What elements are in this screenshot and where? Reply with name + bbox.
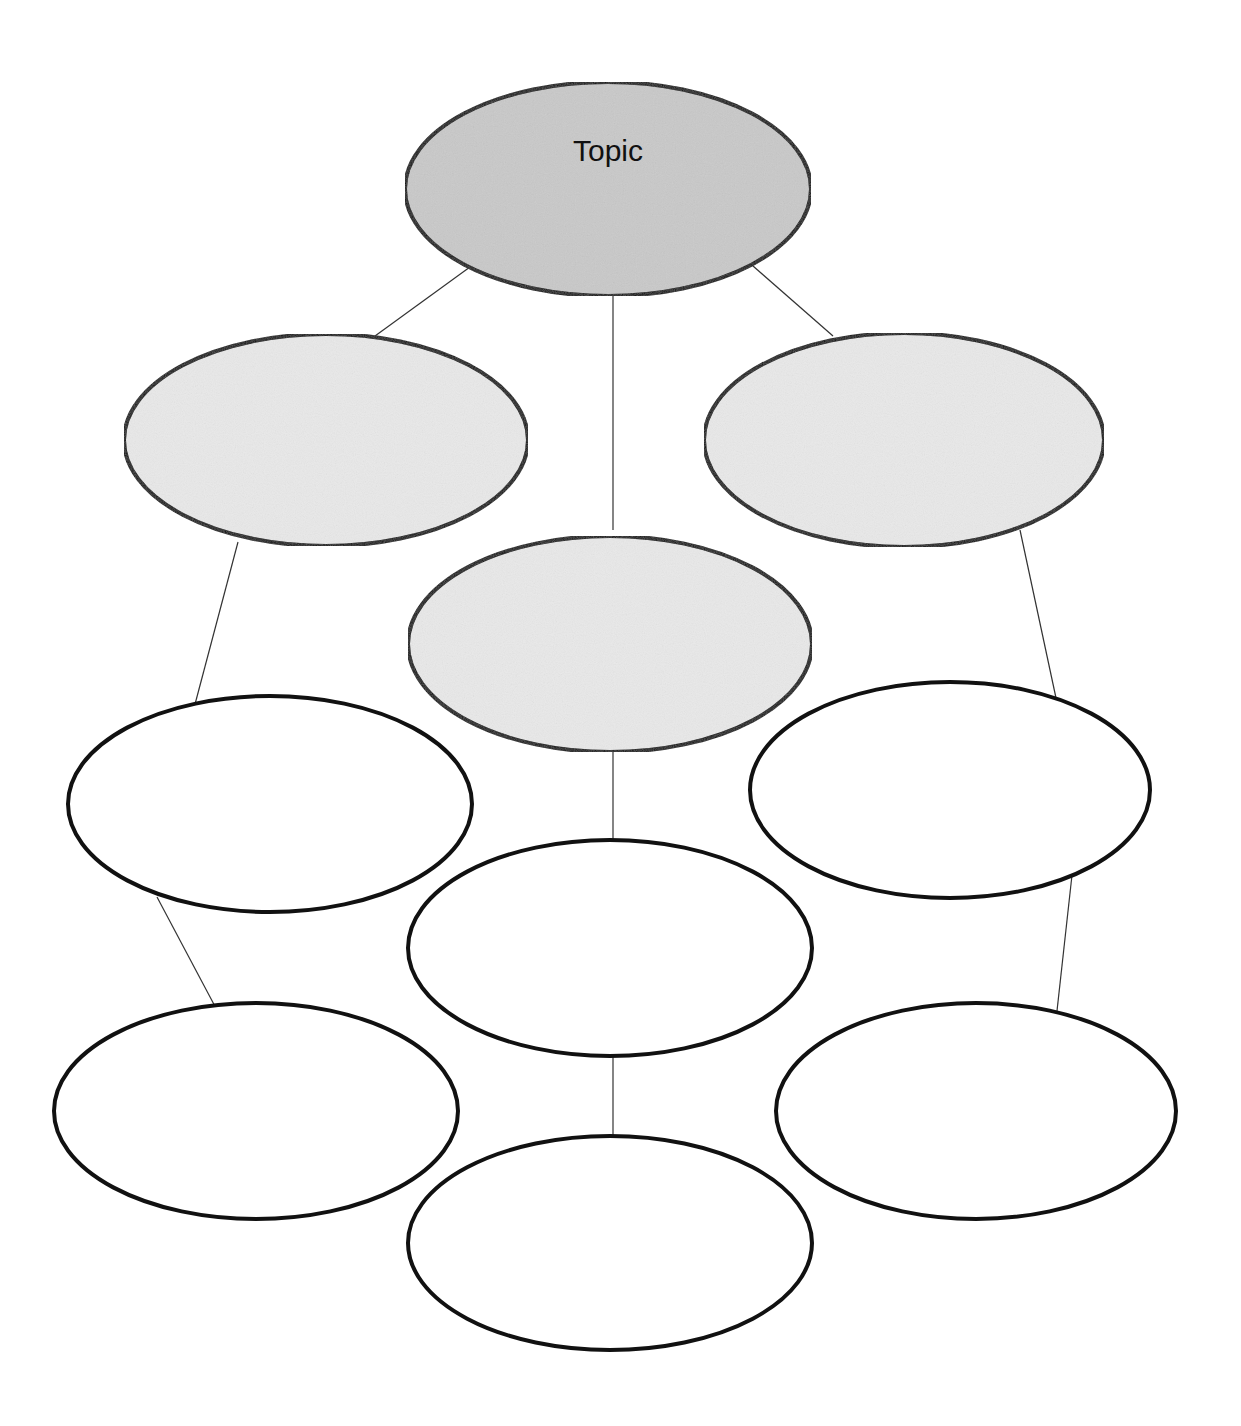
node-detail-left-2[interactable] (54, 1003, 458, 1219)
node-subtopic-center[interactable] (408, 536, 812, 752)
ellipse-topic[interactable] (405, 82, 811, 296)
ellipse-detail-right-2[interactable] (776, 1003, 1176, 1219)
connector-topic-to-subtopic-left (375, 267, 470, 336)
ellipse-subtopic-right[interactable] (704, 333, 1104, 547)
ellipse-detail-left-2[interactable] (54, 1003, 458, 1219)
node-label-topic: Topic (573, 134, 643, 167)
node-topic[interactable]: Topic (405, 82, 811, 296)
node-subtopic-right[interactable] (704, 333, 1104, 547)
node-detail-right-1[interactable] (750, 682, 1150, 898)
concept-map: Topic (0, 0, 1241, 1426)
ellipse-detail-center-1[interactable] (408, 840, 812, 1056)
connector-subtopic-left-to-detail-left-1 (194, 542, 238, 708)
ellipse-subtopic-left[interactable] (124, 334, 528, 546)
node-detail-right-2[interactable] (776, 1003, 1176, 1219)
connector-subtopic-right-to-detail-right-1 (1020, 530, 1056, 698)
connector-detail-left-1-to-detail-left-2 (157, 897, 218, 1012)
ellipse-detail-left-1[interactable] (68, 696, 472, 912)
node-subtopic-left[interactable] (124, 334, 528, 546)
node-detail-center-1[interactable] (408, 840, 812, 1056)
ellipse-detail-center-2[interactable] (408, 1136, 812, 1350)
connector-detail-right-1-to-detail-right-2 (1056, 866, 1073, 1020)
ellipse-subtopic-center[interactable] (408, 536, 812, 752)
node-detail-left-1[interactable] (68, 696, 472, 912)
ellipse-detail-right-1[interactable] (750, 682, 1150, 898)
node-detail-center-2[interactable] (408, 1136, 812, 1350)
nodes-layer: Topic (54, 82, 1176, 1350)
connector-topic-to-subtopic-right (753, 266, 833, 336)
